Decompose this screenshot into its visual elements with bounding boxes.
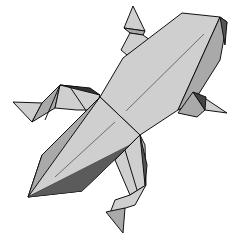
origami-lizard-illustration bbox=[0, 0, 239, 244]
